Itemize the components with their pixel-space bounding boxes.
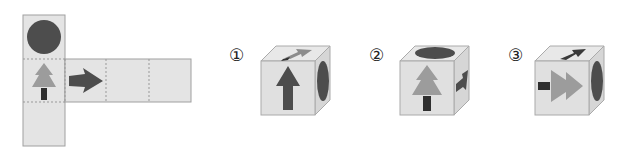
cube-option-3 [0, 0, 630, 154]
circle-icon [591, 61, 603, 101]
